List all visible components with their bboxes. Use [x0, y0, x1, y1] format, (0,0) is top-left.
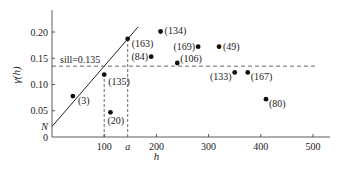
data-point: [102, 72, 107, 77]
data-point: [196, 44, 201, 49]
x-tick-label: 500: [306, 141, 321, 152]
data-point-label: (133): [210, 71, 232, 83]
variogram-chart: 100200300400500a00.050.100.150.20N sill=…: [0, 0, 337, 172]
data-points: (3)(135)(163)(20)(84)(134)(106)(169)(49)…: [70, 25, 285, 127]
data-point-label: (80): [269, 98, 286, 110]
y-tick-label-n: N: [40, 121, 49, 132]
data-point: [125, 36, 130, 41]
data-point: [70, 94, 75, 99]
data-point-label: (84): [132, 51, 149, 63]
x-tick-label: 300: [201, 141, 216, 152]
data-point-label: (167): [251, 71, 273, 83]
data-point: [217, 44, 222, 49]
x-tick-label: 100: [97, 141, 112, 152]
sill-label: sill=0.135: [60, 54, 100, 65]
data-point: [264, 97, 269, 102]
y-axis-title: γ(h): [10, 66, 23, 83]
y-tick-label: 0.05: [31, 105, 49, 116]
data-point: [149, 54, 154, 59]
y-tick-label: 0.15: [31, 53, 49, 64]
data-point-label: (20): [107, 115, 124, 127]
data-point-label: (169): [173, 41, 195, 53]
data-point-label: (134): [165, 25, 187, 37]
y-tick-label: 0.20: [31, 27, 49, 38]
data-point: [175, 61, 180, 66]
data-point: [232, 70, 237, 75]
y-tick-label: 0: [43, 132, 48, 143]
data-point-label: (49): [223, 41, 240, 53]
data-point-label: (163): [132, 38, 154, 50]
x-axis-title: h: [154, 150, 160, 162]
y-tick-label: 0.10: [31, 79, 49, 90]
data-point-label: (106): [180, 53, 202, 65]
x-tick-label-a: a: [125, 141, 130, 152]
x-tick-label: 400: [253, 141, 268, 152]
data-point-label: (3): [78, 95, 90, 107]
data-point: [158, 29, 163, 34]
data-point-label: (135): [108, 76, 130, 88]
data-point: [108, 110, 113, 115]
data-point: [245, 70, 250, 75]
